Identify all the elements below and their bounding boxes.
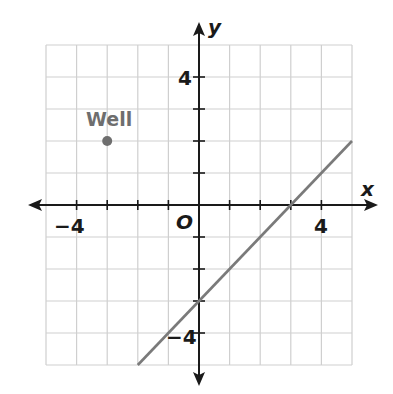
coordinate-plane: Well x y O −4 4 4 −4 <box>0 0 393 394</box>
x-tick-label-neg4: −4 <box>54 214 85 238</box>
well-label: Well <box>86 108 132 130</box>
x-tick-label-4: 4 <box>314 214 328 238</box>
y-tick-label-neg4: −4 <box>166 325 197 349</box>
origin-label: O <box>176 210 193 234</box>
y-axis-label: y <box>208 15 222 39</box>
x-axis-label: x <box>360 177 375 201</box>
y-tick-label-4: 4 <box>178 66 192 90</box>
well-point-marker <box>102 136 112 146</box>
